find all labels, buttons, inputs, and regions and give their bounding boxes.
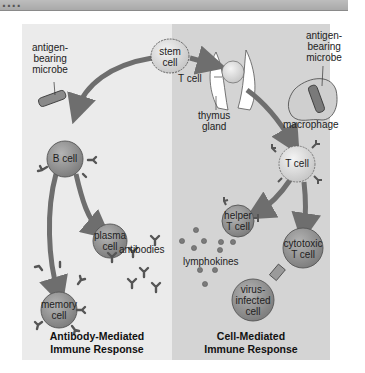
antigen-microbe-right-label: antigen- bearing microbe	[306, 30, 342, 63]
label-line: T cell	[282, 249, 324, 260]
label-line: cell	[235, 306, 271, 317]
label-line: stem	[158, 46, 182, 57]
t-cell-label: T cell	[285, 158, 309, 169]
label-line: microbe	[32, 64, 68, 75]
arrow-tcell-to-helper	[258, 180, 290, 212]
macrophage-icon	[288, 66, 337, 120]
arrow-thymus-to-tcell	[247, 90, 292, 142]
caption-line: Immune Response	[22, 343, 172, 356]
antigen-microbe-left-label: antigen- bearing microbe	[32, 42, 68, 75]
label-line: cytotoxic	[282, 238, 324, 249]
label-line: antigen-	[32, 42, 68, 53]
caption-line: Immune Response	[172, 343, 330, 356]
memory-cell-label: memory cell	[40, 299, 78, 321]
stem-cell-label: stem cell	[158, 46, 182, 68]
lymphokines-label: lymphokines	[183, 256, 239, 267]
thymus-t-cell-icon	[222, 61, 244, 83]
label-line: infected	[235, 295, 271, 306]
label-line: microbe	[306, 52, 342, 63]
cytotoxic-t-cell-label: cytotoxic T cell	[282, 238, 324, 260]
label-line: gland	[198, 121, 230, 132]
label-line: virus-	[235, 284, 271, 295]
label-line: memory	[40, 299, 78, 310]
arrow-bcell-to-memory	[49, 174, 58, 292]
arrow-stem-to-tcell	[190, 58, 212, 64]
label-line: T cell	[222, 221, 254, 232]
caption-line: Antibody-Mediated	[22, 330, 172, 343]
label-line: cell	[158, 57, 182, 68]
caption-line: Cell-Mediated	[172, 330, 330, 343]
cell-mediated-caption: Cell-Mediated Immune Response	[172, 330, 330, 356]
thymus-gland-label: thymus gland	[198, 110, 230, 132]
arrow-tcell-to-cytotoxic	[304, 182, 306, 228]
label-line: antigen-	[306, 30, 342, 41]
label-line: bearing	[32, 53, 68, 64]
antibody-mediated-caption: Antibody-Mediated Immune Response	[22, 330, 172, 356]
label-line: helper	[222, 210, 254, 221]
antibodies-label: antibodies	[119, 244, 165, 255]
macrophage-label: macrophage	[283, 119, 339, 130]
arrow-bcell-to-plasma	[76, 174, 100, 230]
b-cell-label: B cell	[51, 153, 79, 164]
label-line: thymus	[198, 110, 230, 121]
arrows	[49, 58, 305, 292]
arrow-stem-to-bcell	[77, 58, 152, 110]
label-line: bearing	[306, 41, 342, 52]
cell-contact-icon	[269, 264, 285, 281]
label-line: cell	[40, 310, 78, 321]
thymus-t-cell-label: T cell	[178, 73, 202, 84]
label-line: plasma	[93, 230, 127, 241]
antigen-microbe-left-icon	[37, 82, 66, 107]
virus-infected-cell-label: virus- infected cell	[235, 284, 271, 317]
helper-t-cell-label: helper T cell	[222, 210, 254, 232]
